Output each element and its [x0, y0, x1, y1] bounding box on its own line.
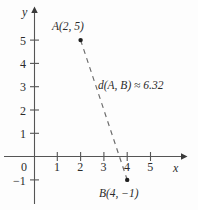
point-a-marker [78, 38, 82, 42]
point-b-marker [125, 178, 129, 182]
y-axis-label: y [22, 6, 27, 18]
x-tick-label-5: 5 [147, 161, 153, 173]
origin-label: 0 [21, 161, 27, 173]
y-tick-label-4: 4 [20, 58, 26, 70]
y-tick-label-minus-1: −1 [13, 175, 26, 187]
x-axis-label: x [173, 162, 178, 174]
x-tick-label-1: 1 [54, 161, 60, 173]
distance-annotation: d(A, B) ≈ 6.32 [98, 80, 163, 92]
point-b-label: B(4, −1) [99, 188, 139, 200]
x-tick-label-4: 4 [124, 161, 130, 173]
y-tick-label-2: 2 [20, 105, 26, 117]
point-a-label: A(2, 5) [52, 21, 84, 33]
y-tick-label-1: 1 [20, 128, 26, 140]
x-tick-label-2: 2 [77, 161, 83, 173]
x-tick-label-3: 3 [101, 161, 107, 173]
coordinate-plane-graphic [0, 0, 198, 210]
y-tick-label-5: 5 [20, 35, 26, 47]
y-tick-label-3: 3 [20, 81, 26, 93]
distance-formula-figure: y x 0 1 2 3 4 5 −1 1 2 3 4 5 A(2, 5) B(4… [0, 0, 198, 210]
